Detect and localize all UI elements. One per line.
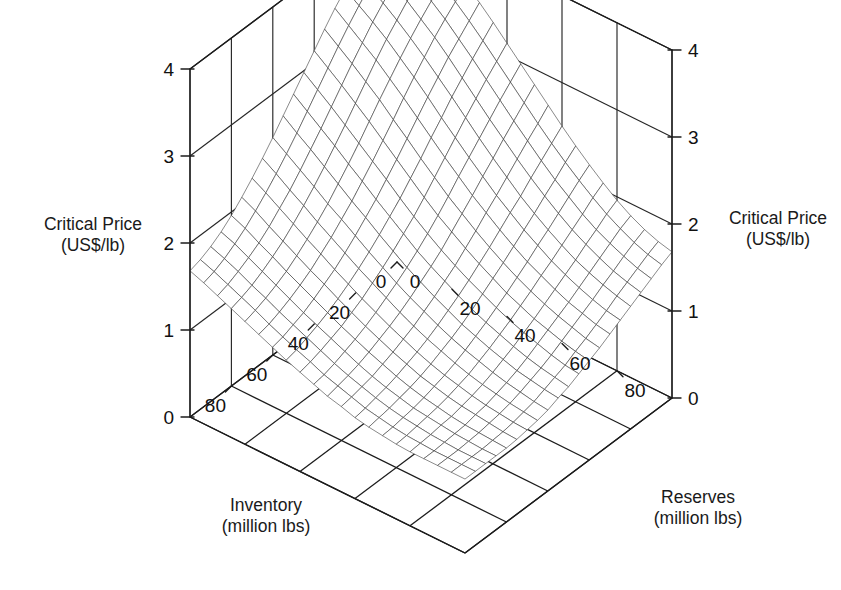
z-axis-left-title-line1: Critical Price <box>18 214 168 235</box>
x-axis-title: Inventory (million lbs) <box>176 495 356 537</box>
z-left-tick-1: 1 <box>163 320 174 341</box>
x-tick-0: 0 <box>376 271 387 292</box>
y-tick-0: 0 <box>410 271 421 292</box>
y-tick-60: 60 <box>569 353 590 374</box>
surface-mesh <box>190 0 672 479</box>
z-right-tick-3: 3 <box>688 127 699 148</box>
surface-plot-figure: 0123401234020406080020406080 Critical Pr… <box>0 0 841 590</box>
y-axis-title-line1: Reserves <box>608 487 788 508</box>
z-axis-left-title: Critical Price (US$/lb) <box>18 214 168 256</box>
z-left-tick-3: 3 <box>163 146 174 167</box>
z-left-tick-4: 4 <box>163 59 174 80</box>
z-right-tick-4: 4 <box>688 40 699 61</box>
x-axis-title-line2: (million lbs) <box>176 516 356 537</box>
x-tick-60: 60 <box>246 364 267 385</box>
z-left-tick-0: 0 <box>163 407 174 428</box>
z-axis-right-title-line2: (US$/lb) <box>718 229 838 250</box>
y-axis-title: Reserves (million lbs) <box>608 487 788 529</box>
x-axis-title-line1: Inventory <box>176 495 356 516</box>
z-right-tick-1: 1 <box>688 301 699 322</box>
z-right-tick-0: 0 <box>688 388 699 409</box>
z-right-tick-2: 2 <box>688 214 699 235</box>
y-tick-20: 20 <box>459 298 480 319</box>
x-tick-40: 40 <box>288 333 309 354</box>
x-tick-20: 20 <box>329 302 350 323</box>
z-axis-left-title-line2: (US$/lb) <box>18 235 168 256</box>
y-tick-80: 80 <box>624 380 645 401</box>
z-axis-right-title-line1: Critical Price <box>718 208 838 229</box>
y-axis-title-line2: (million lbs) <box>608 508 788 529</box>
z-axis-right-title: Critical Price (US$/lb) <box>718 208 838 250</box>
y-tick-40: 40 <box>514 325 535 346</box>
x-tick-80: 80 <box>205 395 226 416</box>
